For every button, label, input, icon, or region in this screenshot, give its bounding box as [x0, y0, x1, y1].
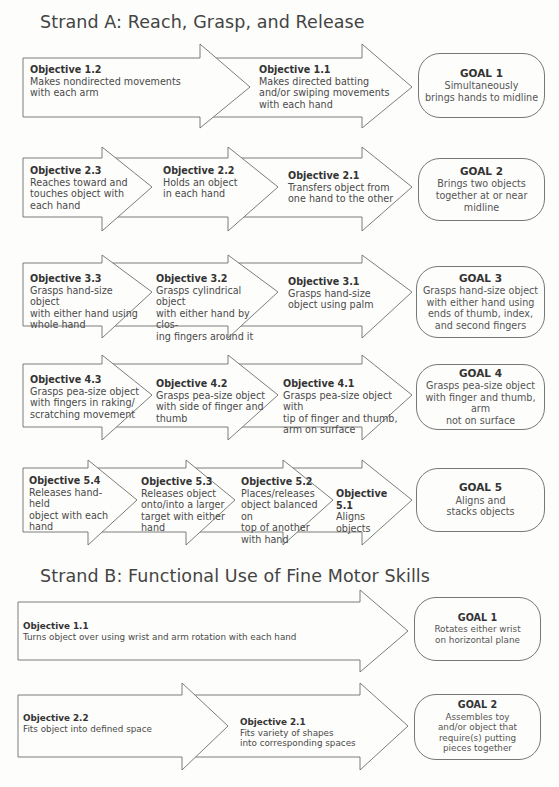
- objective-a5-3: Objective 5.3 Releases object onto/into …: [141, 476, 226, 534]
- objective-a2-1: Objective 2.1 Transfers object from one …: [288, 170, 408, 205]
- objective-a3-1: Objective 3.1 Grasps hand-size object us…: [288, 276, 398, 311]
- goal-a1: GOAL 1 Simultaneously brings hands to mi…: [418, 53, 545, 118]
- objective-a5-4: Objective 5.4 Releases hand-held object …: [29, 475, 114, 533]
- objective-a1-2: Objective 1.2 Makes nondirected movement…: [30, 64, 195, 99]
- goal-a3: GOAL 3 Grasps hand-size object with eith…: [416, 266, 545, 338]
- objective-a4-2: Objective 4.2 Grasps pea-size object wit…: [156, 378, 271, 424]
- objective-b1-1: Objective 1.1 Turns object over using wr…: [23, 621, 353, 642]
- objective-b2-2: Objective 2.2 Fits object into defined s…: [23, 713, 173, 734]
- objective-a5-2: Objective 5.2 Places/releases object bal…: [241, 476, 326, 546]
- objective-a3-2: Objective 3.2 Grasps cylindrical object …: [156, 273, 271, 343]
- objective-a4-1: Objective 4.1 Grasps pea-size object wit…: [283, 378, 408, 436]
- objective-a1-1: Objective 1.1 Makes directed batting and…: [259, 64, 409, 110]
- goal-b2: GOAL 2 Assembles toy and/or object that …: [414, 694, 541, 760]
- goal-b1: GOAL 1 Rotates either wrist on horizonta…: [414, 597, 541, 661]
- goal-a2: GOAL 2 Brings two objects together at or…: [418, 158, 545, 221]
- objective-a3-3: Objective 3.3 Grasps hand-size object wi…: [30, 273, 145, 331]
- goal-a4: GOAL 4 Grasps pea-size object with finge…: [416, 364, 545, 430]
- objective-a5-1: Objective 5.1 Aligns objects: [336, 488, 406, 534]
- objective-b2-1: Objective 2.1 Fits variety of shapes int…: [240, 717, 360, 749]
- objective-a4-3: Objective 4.3 Grasps pea-size object wit…: [30, 374, 145, 420]
- objective-a2-3: Objective 2.3 Reaches toward and touches…: [30, 165, 140, 211]
- goal-a5: GOAL 5 Aligns and stacks objects: [416, 468, 545, 532]
- objective-a2-2: Objective 2.2 Holds an object in each ha…: [163, 165, 263, 200]
